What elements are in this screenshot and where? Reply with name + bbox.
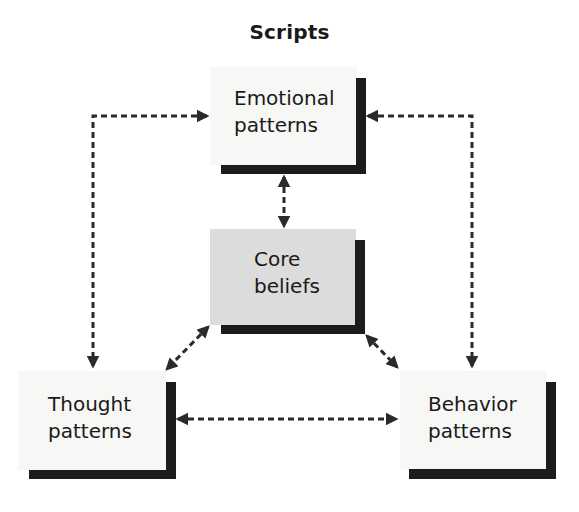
node-label-line1: Behavior: [428, 391, 517, 418]
node-label-line2: patterns: [48, 418, 132, 445]
node-label-line1: Emotional: [234, 85, 334, 112]
node-shadow-bottom: [409, 469, 556, 479]
arrow-emotional-behavior: [368, 116, 472, 366]
node-shadow-bottom: [221, 165, 366, 174]
node-label-line1: Thought: [48, 391, 132, 418]
node-shadow-right: [166, 382, 176, 479]
node-shadow-right: [546, 382, 556, 479]
node-shadow-bottom: [29, 470, 176, 479]
node-shadow-right: [356, 78, 366, 174]
arrow-core-thought: [167, 327, 208, 369]
node-label: Emotional patterns: [234, 85, 334, 139]
node-shadow-bottom: [221, 325, 365, 334]
node-emotional-patterns: Emotional patterns: [210, 67, 367, 174]
arrow-emotional-thought: [93, 116, 207, 366]
node-label: Core beliefs: [254, 246, 320, 300]
node-thought-patterns: Thought patterns: [18, 371, 176, 479]
node-core-beliefs: Core beliefs: [210, 229, 366, 334]
node-behavior-patterns: Behavior patterns: [400, 371, 557, 479]
node-label-line2: patterns: [234, 112, 334, 139]
node-shadow-right: [355, 240, 365, 334]
node-label: Thought patterns: [48, 391, 132, 445]
node-label-line1: Core: [254, 246, 320, 273]
node-label-line2: beliefs: [254, 273, 320, 300]
arrow-core-behavior: [367, 336, 397, 367]
node-label-line2: patterns: [428, 418, 517, 445]
node-label: Behavior patterns: [428, 391, 517, 445]
